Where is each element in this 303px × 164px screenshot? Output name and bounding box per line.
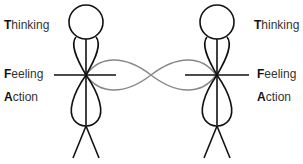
left-leg-left	[73, 126, 86, 158]
right-leg-right	[217, 126, 230, 158]
label-rest: eeling	[11, 67, 43, 81]
right-leg-left	[204, 126, 217, 158]
left-stick-figure	[54, 5, 116, 158]
initial-letter: A	[257, 90, 266, 104]
right-stick-figure	[185, 5, 249, 158]
right-label-thinking: Thinking	[254, 18, 299, 32]
right-label-action: Action	[257, 90, 291, 104]
label-rest: eeling	[264, 67, 296, 81]
label-rest: hinking	[11, 18, 49, 32]
left-label-action: Action	[4, 90, 38, 104]
initial-letter: A	[4, 90, 13, 104]
left-label-feeling: Feeling	[4, 67, 43, 81]
left-label-thinking: Thinking	[4, 18, 49, 32]
left-leg-right	[86, 126, 99, 158]
label-rest: ction	[13, 90, 38, 104]
right-label-feeling: Feeling	[257, 67, 296, 81]
right-head	[200, 5, 234, 39]
label-rest: hinking	[261, 18, 299, 32]
label-rest: ction	[266, 90, 291, 104]
left-head	[69, 5, 103, 39]
